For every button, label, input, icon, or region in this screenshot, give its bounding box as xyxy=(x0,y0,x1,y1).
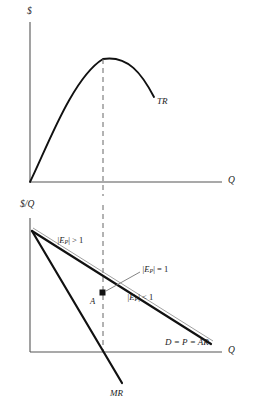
top-x-axis-label: Q xyxy=(228,176,235,186)
top-y-axis-label: $ xyxy=(27,7,32,17)
unit-elastic-base: |E xyxy=(142,264,150,274)
total-revenue-curve xyxy=(30,58,154,182)
total-revenue-curve-label: TR xyxy=(157,97,168,106)
marginal-revenue-curve xyxy=(32,231,122,383)
unit-elastic-tail: | = 1 xyxy=(153,264,168,274)
bottom-x-axis-label: Q xyxy=(228,346,235,356)
marginal-revenue-curve-label: MR xyxy=(110,389,123,398)
demand-curve-label: D = P = AR xyxy=(165,338,209,347)
elastic-region-tail: | > 1 xyxy=(68,235,83,245)
unit-elastic-label: |EP| = 1 xyxy=(142,265,168,274)
bottom-y-axis-label: $/Q xyxy=(20,200,34,210)
midpoint-a-label: A xyxy=(90,297,95,306)
midpoint-a-marker xyxy=(100,290,106,296)
inelastic-region-tail: | < 1 xyxy=(138,292,153,302)
economics-figure: $ Q TR $/Q Q |EP| > 1 |EP| = 1 |EP| < 1 … xyxy=(0,0,253,409)
elastic-region-label: |EP| > 1 xyxy=(57,236,83,245)
figure-canvas xyxy=(0,0,253,409)
inelastic-region-label: |EP| < 1 xyxy=(127,293,153,302)
elastic-region-base: |E xyxy=(57,235,65,245)
demand-curve xyxy=(32,231,211,344)
inelastic-region-base: |E xyxy=(127,292,135,302)
